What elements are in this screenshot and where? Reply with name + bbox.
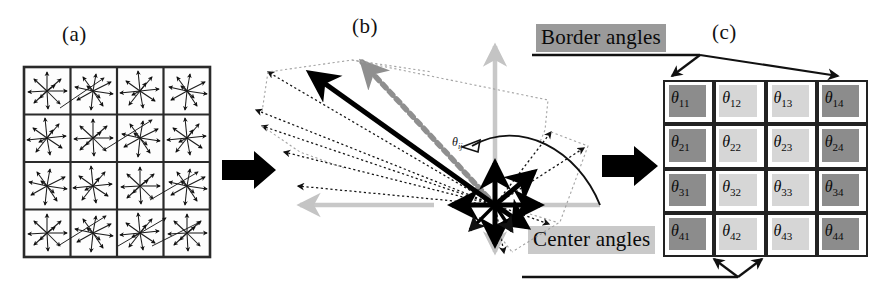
theta-subscript: 44 <box>833 230 844 242</box>
theta-subscript: 32 <box>730 186 741 198</box>
theta-symbol: θ <box>722 133 730 150</box>
theta-subscript: 24 <box>833 141 844 153</box>
theta-subscript: 22 <box>730 141 741 153</box>
gray-dotted-vector <box>362 62 495 205</box>
theta-cell-label: θ41 <box>671 222 690 242</box>
theta-cell-label: θ44 <box>825 222 844 242</box>
theta-cell-label: θ43 <box>774 222 793 242</box>
dotted-outline-polygon <box>262 60 548 168</box>
theta-ij-label: θij <box>452 135 462 151</box>
theta-symbol: θ <box>825 133 833 150</box>
theta-ij-subscript: ij <box>458 142 462 151</box>
theta-symbol: θ <box>671 89 679 106</box>
border-indicator-arrows <box>672 55 838 76</box>
flow-arrow-2 <box>602 146 658 186</box>
figure-root: (a) (b) (c) Border angles Center angles <box>0 0 894 295</box>
theta-subscript: 41 <box>679 230 690 242</box>
theta-subscript: 43 <box>781 230 792 242</box>
theta-cell-label: θ42 <box>722 222 741 242</box>
theta-cell-label: θ32 <box>722 178 741 198</box>
theta-subscript: 42 <box>730 230 741 242</box>
theta-subscript: 21 <box>679 141 690 153</box>
theta-symbol: θ <box>825 222 833 239</box>
theta-symbol: θ <box>671 222 679 239</box>
theta-symbol: θ <box>671 178 679 195</box>
theta-cell-label: θ21 <box>671 133 690 153</box>
theta-cell-label: θ24 <box>825 133 844 153</box>
principal-vector <box>310 73 495 205</box>
theta-subscript: 33 <box>781 186 792 198</box>
theta-symbol: θ <box>671 133 679 150</box>
theta-subscript: 23 <box>781 141 792 153</box>
theta-arc <box>472 136 600 205</box>
theta-symbol: θ <box>722 89 730 106</box>
theta-subscript: 12 <box>730 97 741 109</box>
theta-subscript: 34 <box>833 186 844 198</box>
theta-cell-label: θ31 <box>671 178 690 198</box>
center-indicator-arrows <box>714 259 762 277</box>
theta-symbol: θ <box>722 178 730 195</box>
theta-symbol: θ <box>825 89 833 106</box>
theta-cell-label: θ12 <box>722 89 741 109</box>
theta-subscript: 31 <box>679 186 690 198</box>
theta-symbol: θ <box>825 178 833 195</box>
panel-b-vectors <box>256 46 600 253</box>
theta-cell-label: θ23 <box>774 133 793 153</box>
theta-cell-label: θ13 <box>774 89 793 109</box>
theta-cell-label: θ11 <box>671 89 689 109</box>
theta-subscript: 11 <box>679 97 690 109</box>
theta-cell-label: θ14 <box>825 89 844 109</box>
theta-symbol: θ <box>722 222 730 239</box>
theta-cell-label: θ34 <box>825 178 844 198</box>
flow-arrow-1 <box>222 151 276 189</box>
theta-subscript: 14 <box>833 97 844 109</box>
theta-cell-label: θ22 <box>722 133 741 153</box>
theta-subscript: 13 <box>781 97 792 109</box>
theta-arc-head <box>462 140 480 152</box>
theta-cell-label: θ33 <box>774 178 793 198</box>
panel-a-grid <box>24 67 210 257</box>
